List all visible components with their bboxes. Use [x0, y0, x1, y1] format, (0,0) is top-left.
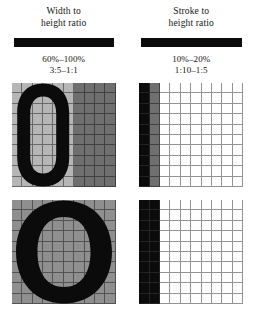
- grid-cell: [85, 200, 95, 210]
- grid-cell: [222, 125, 232, 135]
- grid-cell: [95, 166, 105, 176]
- grid-cell: [64, 221, 74, 231]
- grid-cell: [64, 242, 74, 252]
- grid-cell: [150, 262, 160, 272]
- grid-cell: [74, 200, 84, 210]
- grid-cell: [212, 145, 222, 155]
- grid-cell: [33, 166, 43, 176]
- grid-cell: [74, 283, 84, 293]
- grid-cell: [95, 135, 105, 145]
- grid-cell: [191, 252, 201, 262]
- grid-cell: [53, 200, 63, 210]
- grid-cell: [181, 145, 191, 155]
- grid-cell: [43, 156, 53, 166]
- grid-cell: [33, 273, 43, 283]
- grid-cell: [181, 231, 191, 241]
- grid-cell: [160, 83, 170, 93]
- grid-cell: [202, 145, 212, 155]
- grid-cell: [233, 294, 243, 304]
- grid-cell: [160, 104, 170, 114]
- grid-cell: [12, 273, 22, 283]
- grid-cell: [95, 145, 105, 155]
- grid-cell: [105, 83, 115, 93]
- grid-cell: [233, 104, 243, 114]
- grid-cell: [160, 135, 170, 145]
- grid-cell: [139, 294, 149, 304]
- grid-cell: [43, 104, 53, 114]
- grid-cell: [53, 125, 63, 135]
- grid-cell: [170, 83, 180, 93]
- grid-cell: [139, 273, 149, 283]
- grid-cell: [170, 145, 180, 155]
- grid-cell: [212, 294, 222, 304]
- grid-cell: [181, 177, 191, 187]
- grid-cell: [181, 166, 191, 176]
- grid-cell: [22, 166, 32, 176]
- grid-cell: [222, 93, 232, 103]
- grid-cell: [222, 231, 232, 241]
- grid-cell: [212, 200, 222, 210]
- grid-cell: [233, 210, 243, 220]
- grid-cell: [95, 83, 105, 93]
- grid-cell: [170, 156, 180, 166]
- grid-cell: [105, 177, 115, 187]
- grid-cell: [74, 177, 84, 187]
- grid-cell: [160, 177, 170, 187]
- grid-cell: [222, 273, 232, 283]
- grid-cell: [139, 145, 149, 155]
- grid-cell: [222, 135, 232, 145]
- grid-cell: [64, 104, 74, 114]
- grid-cell: [181, 294, 191, 304]
- grid-cell: [53, 210, 63, 220]
- grid-cell: [202, 156, 212, 166]
- grid-cell: [53, 177, 63, 187]
- grid-cell: [22, 145, 32, 155]
- grid-cell: [74, 125, 84, 135]
- grid-cell: [33, 262, 43, 272]
- grid-cell: [150, 200, 160, 210]
- grid-cell: [150, 177, 160, 187]
- grid-cell: [85, 273, 95, 283]
- grid-cell: [150, 221, 160, 231]
- grid-cell: [12, 231, 22, 241]
- grid-cell: [74, 294, 84, 304]
- grid-cell: [160, 200, 170, 210]
- grid-cell: [12, 156, 22, 166]
- grid-cell: [43, 125, 53, 135]
- grid-cell: [160, 210, 170, 220]
- grid-cell: [139, 200, 149, 210]
- grid-cell: [222, 104, 232, 114]
- grid-cell: [12, 252, 22, 262]
- grid-cell: [43, 242, 53, 252]
- grid-cell: [212, 262, 222, 272]
- diagram-thin-stroke: [139, 83, 243, 187]
- grid-cell: [105, 242, 115, 252]
- grid-cell: [53, 114, 63, 124]
- grid-cell: [12, 145, 22, 155]
- grid-cell: [212, 135, 222, 145]
- grid-cell: [233, 273, 243, 283]
- grid-cell: [105, 135, 115, 145]
- grid-cell: [233, 221, 243, 231]
- grid-cell: [33, 135, 43, 145]
- grid-cell: [160, 273, 170, 283]
- grid-cell: [53, 166, 63, 176]
- grid-cell: [85, 166, 95, 176]
- grid-cell: [170, 262, 180, 272]
- grid-cell: [170, 166, 180, 176]
- grid-cell: [212, 166, 222, 176]
- grid-cell: [139, 252, 149, 262]
- grid-cell: [170, 177, 180, 187]
- grid-cell: [139, 83, 149, 93]
- grid-cell: [22, 177, 32, 187]
- grid-cell: [139, 283, 149, 293]
- grid-cell: [95, 156, 105, 166]
- grid-cell: [43, 294, 53, 304]
- grid-cell: [105, 262, 115, 272]
- grid-cell: [160, 114, 170, 124]
- grid-cell: [150, 252, 160, 262]
- grid-cell: [212, 273, 222, 283]
- grid-cell: [64, 210, 74, 220]
- grid-cell: [12, 262, 22, 272]
- grid-cell: [202, 83, 212, 93]
